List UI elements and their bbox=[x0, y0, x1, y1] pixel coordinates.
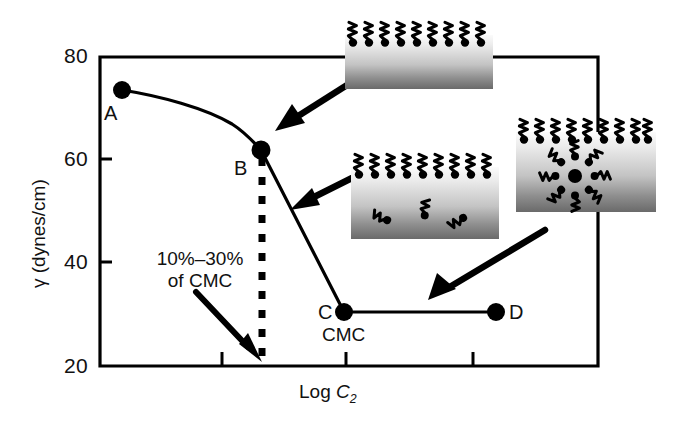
pre-cmc-arrow bbox=[196, 292, 262, 362]
point-label-b: B bbox=[234, 157, 247, 180]
x-axis-title-prefix: Log bbox=[299, 381, 336, 402]
inset-monolayer-with-micelle bbox=[513, 84, 665, 244]
y-axis-ticks bbox=[100, 159, 112, 262]
pre-cmc-annotation-line1: 10%–30% bbox=[130, 248, 270, 270]
y-axis-title: γ (dynes/cm) bbox=[28, 179, 50, 288]
surfactant-monolayer bbox=[519, 119, 652, 143]
x-axis-title: Log C2 bbox=[299, 381, 357, 406]
inset-monolayer-with-monomers bbox=[345, 131, 505, 243]
surfactant-monolayer bbox=[354, 154, 491, 178]
cmc-label: CMC bbox=[322, 324, 365, 346]
inset-monolayer-partial bbox=[339, 2, 499, 90]
y-tick-label-80: 80 bbox=[42, 44, 88, 68]
data-point-c bbox=[335, 303, 353, 321]
pre-cmc-annotation-line2: of CMC bbox=[130, 270, 270, 292]
arrow-to-curve-midsection bbox=[290, 178, 352, 210]
x-axis-title-subscript: 2 bbox=[350, 392, 357, 406]
liquid-phase-block bbox=[516, 132, 656, 212]
point-label-d: D bbox=[509, 301, 523, 324]
x-axis-title-variable: C bbox=[336, 381, 350, 402]
chart-figure: 80 60 40 20 γ (dynes/cm) Log C2 A B C D … bbox=[0, 0, 678, 423]
point-label-c: C bbox=[318, 301, 332, 324]
y-tick-label-20: 20 bbox=[42, 354, 88, 378]
data-point-d bbox=[487, 303, 505, 321]
y-tick-label-60: 60 bbox=[42, 147, 88, 171]
surfactant-monolayer bbox=[348, 22, 485, 46]
data-point-b bbox=[252, 141, 271, 160]
data-point-a bbox=[113, 81, 131, 99]
point-label-a: A bbox=[104, 102, 117, 125]
pre-cmc-annotation: 10%–30% of CMC bbox=[130, 248, 270, 293]
